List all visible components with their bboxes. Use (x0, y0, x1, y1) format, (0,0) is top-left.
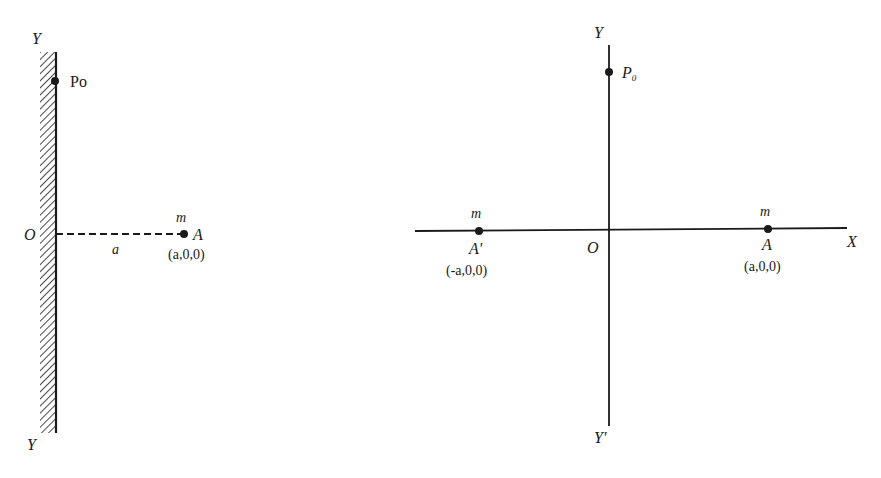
mass-point-a (180, 230, 188, 238)
y-bottom-label: Y (27, 436, 38, 453)
y-bottom-label: Y' (594, 429, 607, 446)
figure-right: Y P0 m A' (-a,0,0) O m A (a,0,0) X Y' (415, 24, 858, 446)
p0-label: P0 (621, 64, 637, 83)
y-top-label: Y (32, 30, 43, 47)
mass-label: m (176, 210, 186, 225)
real-point-label: A (761, 236, 772, 253)
p0-label-main: P (621, 64, 632, 81)
point-a-coords: (a,0,0) (168, 247, 205, 263)
p0-label: Po (70, 73, 87, 90)
image-point-label: A' (468, 240, 483, 257)
point-a-label: A (192, 226, 203, 243)
p0-point (51, 77, 59, 85)
p0-point (605, 68, 613, 76)
real-mass-label: m (760, 204, 770, 219)
x-axis-label: X (846, 233, 858, 250)
origin-label: O (587, 239, 599, 256)
image-mass-label: m (471, 206, 481, 221)
figure-left: Y Po O m A a (a,0,0) Y (24, 30, 205, 453)
p0-label-subscript: 0 (632, 73, 637, 83)
image-point-coords: (-a,0,0) (446, 263, 488, 279)
distance-label: a (112, 242, 119, 257)
image-mass-point (475, 227, 483, 235)
y-top-label: Y (594, 24, 605, 41)
wall-hatching (40, 52, 56, 433)
real-mass-point (764, 225, 772, 233)
origin-label: O (24, 226, 36, 243)
real-point-coords: (a,0,0) (744, 259, 781, 275)
